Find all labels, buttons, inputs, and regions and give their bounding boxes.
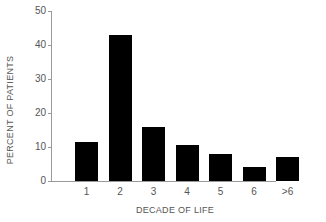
x-tick-label: >6 [276,186,299,197]
y-tick [48,113,52,114]
bar [109,35,132,181]
x-tick-label: 6 [243,186,266,197]
y-tick-label: 30 [26,73,46,84]
bar [142,127,165,181]
y-tick-label: 40 [26,39,46,50]
bar [75,142,98,181]
x-tick-label: 4 [176,186,199,197]
y-tick-label: 50 [26,5,46,16]
y-tick [48,181,52,182]
y-axis-line [51,11,52,181]
y-axis-label: PERCENT OF PATIENTS [2,40,18,180]
y-tick [48,11,52,12]
y-tick [48,45,52,46]
x-tick-label: 5 [209,186,232,197]
x-tick-label: 2 [109,186,132,197]
bar [209,154,232,181]
bar [176,145,199,181]
y-tick-label: 20 [26,107,46,118]
x-axis-label: DECADE OF LIFE [110,205,240,215]
x-tick-label: 1 [75,186,98,197]
x-tick-label: 3 [142,186,165,197]
y-tick-label: 10 [26,141,46,152]
x-axis-line [51,181,276,182]
y-tick [48,79,52,80]
y-tick-label: 0 [26,175,46,186]
bar [276,157,299,181]
bar [243,167,266,181]
y-axis-label-text: PERCENT OF PATIENTS [5,56,15,165]
y-tick [48,147,52,148]
